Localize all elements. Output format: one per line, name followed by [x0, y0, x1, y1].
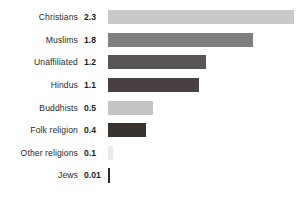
- value-label-other-religions: 0.1: [78, 148, 108, 158]
- bar-track-muslims: [108, 29, 306, 52]
- value-label-folk-religion: 0.4: [78, 125, 108, 135]
- chart-rows: Christians 2.3 Muslims 1.8 Unaffiliated …: [0, 6, 306, 198]
- value-label-christians: 2.3: [78, 12, 108, 22]
- bar-buddhists: [108, 101, 153, 115]
- bar-christians: [108, 10, 294, 24]
- category-label-muslims: Muslims: [0, 35, 78, 45]
- bar-track-christians: [108, 6, 306, 29]
- value-label-unaffiliated: 1.2: [78, 57, 108, 67]
- value-label-jews: 0.01: [78, 170, 108, 180]
- category-label-jews: Jews: [0, 170, 78, 180]
- bar-hindus: [108, 78, 199, 92]
- category-label-christians: Christians: [0, 12, 78, 22]
- bar-other-religions: [108, 146, 113, 160]
- bar-track-buddhists: [108, 96, 306, 119]
- chart-row-other-religions: Other religions 0.1: [0, 142, 306, 165]
- bar-folk-religion: [108, 123, 146, 137]
- value-label-buddhists: 0.5: [78, 103, 108, 113]
- bar-track-unaffiliated: [108, 51, 306, 74]
- category-label-folk-religion: Folk religion: [0, 125, 78, 135]
- chart-row-unaffiliated: Unaffiliated 1.2: [0, 51, 306, 74]
- chart-row-christians: Christians 2.3: [0, 6, 306, 29]
- category-label-hindus: Hindus: [0, 80, 78, 90]
- chart-row-buddhists: Buddhists 0.5: [0, 96, 306, 119]
- chart-row-muslims: Muslims 1.8: [0, 29, 306, 52]
- value-label-muslims: 1.8: [78, 35, 108, 45]
- category-label-unaffiliated: Unaffiliated: [0, 57, 78, 67]
- bar-track-folk-religion: [108, 119, 306, 142]
- bar-unaffiliated: [108, 55, 206, 69]
- bar-track-other-religions: [108, 142, 306, 165]
- bar-jews: [108, 168, 110, 183]
- category-label-buddhists: Buddhists: [0, 103, 78, 113]
- category-label-other-religions: Other religions: [0, 148, 78, 158]
- bar-track-hindus: [108, 74, 306, 97]
- chart-row-folk-religion: Folk religion 0.4: [0, 119, 306, 142]
- value-label-hindus: 1.1: [78, 80, 108, 90]
- bar-chart: Christians 2.3 Muslims 1.8 Unaffiliated …: [0, 0, 306, 198]
- chart-row-hindus: Hindus 1.1: [0, 74, 306, 97]
- bar-muslims: [108, 33, 253, 47]
- chart-row-jews: Jews 0.01: [0, 164, 306, 187]
- bar-track-jews: [108, 164, 306, 187]
